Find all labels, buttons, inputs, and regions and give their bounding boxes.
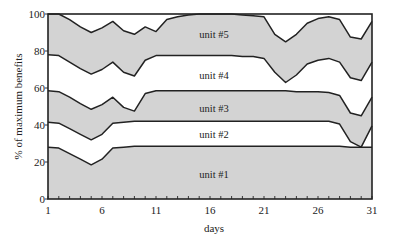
y-tick-label: 60: [34, 82, 46, 94]
unit-label: unit #3: [199, 103, 228, 114]
x-axis-title: days: [204, 222, 224, 234]
x-tick-label: 1: [45, 204, 51, 216]
y-tick-label: 20: [34, 156, 46, 168]
stacked-area-chart: 161116212631 020406080100 unit #5unit #4…: [0, 0, 394, 244]
unit-label: unit #2: [199, 129, 228, 140]
unit-label: unit #5: [199, 29, 228, 40]
y-tick-label: 0: [40, 193, 46, 205]
unit-label: unit #1: [199, 169, 228, 180]
y-axis-title: % of maximum benefits: [12, 53, 24, 159]
x-tick-label: 11: [151, 204, 162, 216]
y-axis: 020406080100: [29, 8, 49, 205]
x-tick-label: 16: [205, 204, 217, 216]
unit-label: unit #4: [199, 70, 229, 81]
x-tick-label: 6: [99, 204, 105, 216]
y-tick-label: 100: [29, 8, 46, 20]
x-tick-label: 21: [259, 204, 270, 216]
x-tick-label: 31: [367, 204, 378, 216]
x-tick-label: 26: [313, 204, 325, 216]
y-tick-label: 40: [34, 119, 46, 131]
y-tick-label: 80: [34, 45, 46, 57]
